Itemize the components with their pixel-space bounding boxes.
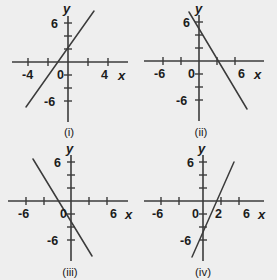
y-tick-label-iii-neg6: -6 (47, 234, 58, 248)
figure-four-line-graphs: -4 0 4 6 -6 x y (i) (0, 0, 277, 280)
y-tick-label-ii-neg6: -6 (176, 94, 187, 108)
x-tick-label-iv-2: 2 (215, 207, 222, 221)
x-tick-label-iii-neg6: -6 (18, 207, 29, 221)
panel-caption-iv: (iv) (195, 266, 211, 278)
graph-line-i (26, 11, 94, 107)
x-tick-label-i-zero: 0 (57, 68, 64, 82)
y-tick-label-iii-6: 6 (54, 156, 61, 170)
y-tick-label-iv-6: 6 (187, 156, 194, 170)
x-tick-label-iv-6: 6 (243, 207, 250, 221)
x-tick-label-ii-6: 6 (238, 67, 245, 81)
x-axis-label-ii: x (253, 67, 262, 82)
y-axis-label-iii: y (65, 141, 74, 156)
x-tick-label-iii-6: 6 (110, 207, 117, 221)
x-tick-label-iv-neg6: -6 (152, 207, 163, 221)
y-tick-label-i-neg6: -6 (44, 95, 55, 109)
y-axis-label-i: y (62, 1, 71, 16)
panel-caption-i: (i) (64, 126, 74, 138)
x-axis-label-iii: x (124, 207, 133, 222)
y-axis-label-iv: y (197, 141, 206, 156)
x-tick-label-i-neg4: -4 (22, 68, 33, 82)
y-tick-label-ii-6: 6 (183, 16, 190, 30)
x-tick-label-ii-neg6: -6 (154, 67, 165, 81)
x-tick-label-iii-zero: 0 (60, 207, 67, 221)
x-tick-label-iv-zero: 0 (192, 207, 199, 221)
panel-ii: -6 0 6 6 -6 x y (ii) (139, 0, 277, 140)
panel-i: -4 0 4 6 -6 x y (i) (0, 0, 138, 140)
panel-iii: -6 0 6 6 -6 x y (iii) (0, 140, 138, 280)
y-tick-label-i-6: 6 (51, 17, 58, 31)
x-axis-label-iv: x (257, 207, 266, 222)
panel-caption-ii: (ii) (195, 126, 208, 138)
panel-caption-iii: (iii) (62, 266, 77, 278)
x-tick-label-i-4: 4 (101, 68, 108, 82)
x-tick-label-ii-zero: 0 (188, 67, 195, 81)
y-axis-label-ii: y (194, 1, 203, 16)
panel-iv: -6 0 2 6 6 -6 x y (iv) (139, 140, 277, 280)
y-tick-label-iv-neg6: -6 (180, 234, 191, 248)
x-axis-label-i: x (117, 68, 126, 83)
